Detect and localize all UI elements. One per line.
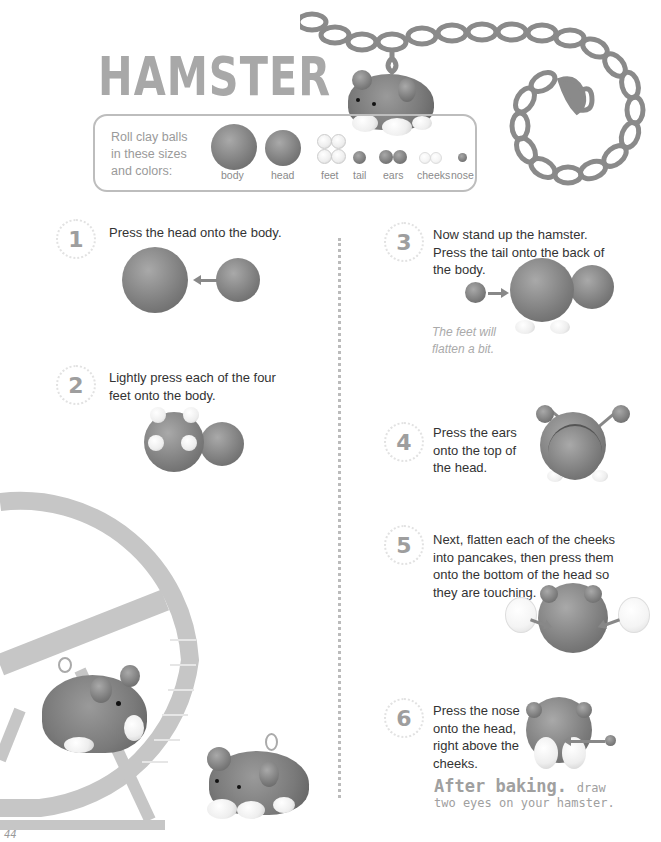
step-5-number: 5 bbox=[384, 525, 424, 565]
label-cheeks: cheeks bbox=[417, 169, 450, 181]
step-4-text: Press the ears onto the top of the head. bbox=[433, 424, 533, 477]
label-head: head bbox=[271, 169, 294, 181]
step-2-text: Lightly press each of the four feet onto… bbox=[109, 369, 279, 404]
head-ball bbox=[265, 130, 301, 166]
step-4-number: 4 bbox=[384, 422, 424, 462]
label-nose: nose bbox=[451, 169, 474, 181]
page-title: HAMSTER bbox=[98, 46, 331, 108]
hamster-wheel-illustration bbox=[0, 490, 210, 835]
step-1-text: Press the head onto the body. bbox=[109, 224, 329, 242]
ear-ball-1 bbox=[379, 150, 393, 164]
step-6-number: 6 bbox=[384, 698, 424, 738]
page-number: 44 bbox=[4, 829, 17, 840]
step-1-number: 1 bbox=[56, 219, 96, 259]
body-ball bbox=[211, 124, 257, 170]
cheek-ball-2 bbox=[430, 152, 442, 164]
nose-ball bbox=[458, 153, 467, 162]
tail-ball bbox=[353, 151, 366, 164]
hamster-charm-photo-bottom bbox=[205, 735, 315, 825]
arrow-left-icon bbox=[570, 740, 605, 743]
arrow-right-icon bbox=[488, 292, 502, 295]
step-3-note: The feet will flatten a bit. bbox=[432, 324, 512, 358]
label-body: body bbox=[221, 169, 244, 181]
after-baking-heading: After baking. bbox=[434, 776, 567, 796]
label-tail: tail bbox=[353, 169, 366, 181]
ear-ball-2 bbox=[393, 150, 407, 164]
after-baking-note: After baking. draw two eyes on your hams… bbox=[434, 776, 615, 810]
label-feet: feet bbox=[321, 169, 339, 181]
hamster-in-wheel-photo bbox=[42, 665, 154, 755]
step-2-number: 2 bbox=[56, 365, 96, 405]
label-ears: ears bbox=[383, 169, 403, 181]
clay-sizes-panel: Roll clay balls in these sizes and color… bbox=[93, 114, 477, 192]
column-divider bbox=[338, 238, 341, 798]
step-3-number: 3 bbox=[384, 222, 424, 262]
step-5-text: Next, flatten each of the cheeks into pa… bbox=[433, 531, 633, 601]
step-6-text: Press the nose onto the head, right abov… bbox=[433, 702, 523, 772]
sizes-intro: Roll clay balls in these sizes and color… bbox=[111, 129, 187, 180]
